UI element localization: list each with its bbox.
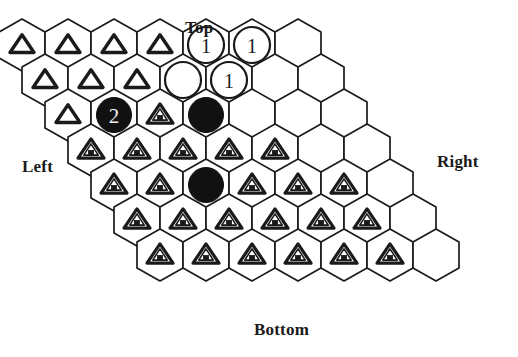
svg-text:1: 1 [224, 70, 234, 92]
edge-label-bottom: Bottom [254, 320, 309, 340]
svg-text:1: 1 [247, 35, 257, 57]
svg-text:2: 2 [109, 104, 120, 128]
edge-label-left: Left [22, 157, 53, 177]
edge-label-top: Top [185, 18, 213, 38]
edge-label-right: Right [437, 152, 479, 172]
hex-grid[interactable]: 1112 [0, 0, 518, 357]
svg-text:1: 1 [201, 35, 211, 57]
hex-board-figure: 1112 Top Bottom Left Right [0, 0, 518, 357]
